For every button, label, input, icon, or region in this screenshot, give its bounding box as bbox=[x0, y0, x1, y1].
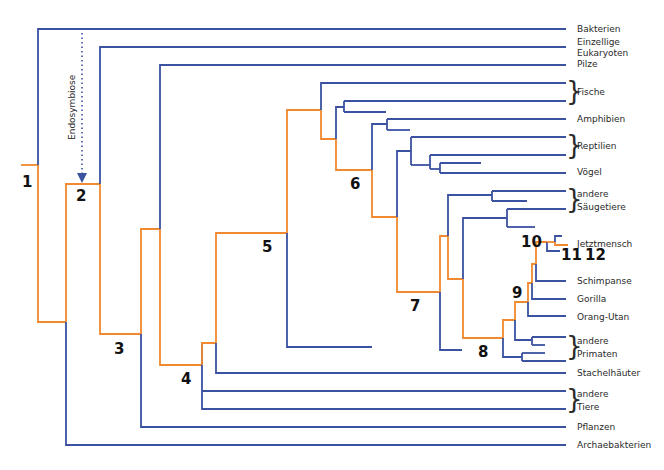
leaf-gorilla: Gorilla bbox=[577, 294, 606, 304]
arrowhead-icon bbox=[77, 173, 87, 183]
leaf-saeugetiere-line1: andere bbox=[577, 189, 609, 199]
lineage-branch-29 bbox=[372, 170, 397, 217]
leaf-fische: Fische bbox=[577, 87, 605, 97]
lineage-branch-40 bbox=[397, 217, 440, 292]
node-5: 5 bbox=[262, 238, 272, 256]
branch-16 bbox=[287, 233, 372, 347]
lineage-branch-72 bbox=[555, 242, 568, 245]
node-8: 8 bbox=[478, 343, 488, 361]
node-7: 7 bbox=[410, 297, 420, 315]
endosymbiose-annotation: Endosymbiose bbox=[67, 33, 87, 183]
branch-69 bbox=[547, 242, 560, 251]
node-labels: 1 2 3 4 5 6 7 8 9 10 11 12 bbox=[22, 173, 606, 388]
branch-9 bbox=[160, 65, 566, 229]
node-2: 2 bbox=[76, 187, 86, 205]
leaf-voegel: Vögel bbox=[577, 167, 602, 177]
branch-71 bbox=[555, 236, 562, 242]
branch-48 bbox=[463, 218, 507, 279]
branch-25 bbox=[372, 124, 387, 170]
node-4: 4 bbox=[181, 370, 191, 388]
leaf-orangutan: Orang-Utan bbox=[577, 312, 629, 322]
branch-5 bbox=[100, 47, 566, 184]
leaf-schimpanse: Schimpanse bbox=[577, 276, 632, 286]
node-12: 12 bbox=[585, 246, 606, 264]
node-10: 10 bbox=[521, 233, 542, 251]
lineage-branch-13 bbox=[202, 343, 216, 365]
lineage-branch-8 bbox=[141, 229, 160, 334]
branch-20 bbox=[336, 107, 344, 139]
branch-43 bbox=[448, 195, 492, 236]
branch-41 bbox=[440, 292, 462, 350]
lineage-branch-24 bbox=[336, 139, 372, 170]
lineage-branch-57 bbox=[503, 320, 515, 338]
lineage-branch-42 bbox=[440, 236, 448, 292]
lineage-branch-6 bbox=[100, 184, 141, 334]
branch-2 bbox=[38, 29, 566, 165]
branch-30 bbox=[397, 151, 411, 217]
branch-14 bbox=[216, 343, 566, 373]
leaf-reptilien: Reptilien bbox=[577, 141, 616, 151]
branch-67 bbox=[536, 264, 566, 281]
lineage-branch-10 bbox=[160, 229, 202, 365]
leaf-amphibien: Amphibien bbox=[577, 114, 625, 124]
lineage-branch-19 bbox=[321, 110, 336, 139]
branch-65 bbox=[532, 283, 566, 299]
lineage-branch-47 bbox=[448, 236, 463, 279]
leaf-eukaryoten-line1: Einzellige bbox=[577, 37, 620, 47]
node-3: 3 bbox=[114, 340, 124, 358]
branch-18 bbox=[321, 83, 566, 110]
leaf-pflanzen: Pflanzen bbox=[577, 422, 615, 432]
node-1: 1 bbox=[22, 173, 32, 191]
leaf-bakterien: Bakterien bbox=[577, 24, 620, 34]
phylogenetic-tree: Endosymbiose Bakterien Einzellige Eukary… bbox=[0, 0, 664, 470]
lineage-branch-52 bbox=[463, 279, 503, 338]
node-6: 6 bbox=[350, 175, 360, 193]
node-11: 11 bbox=[561, 246, 582, 264]
lineage-branch-15 bbox=[216, 233, 287, 343]
lineage-branch-17 bbox=[287, 110, 321, 233]
leaf-primaten-line1: andere bbox=[577, 336, 609, 346]
lineage-branch-1 bbox=[38, 165, 66, 322]
endosymbiose-label: Endosymbiose bbox=[67, 74, 77, 140]
leaf-tiere-line1: andere bbox=[577, 389, 609, 399]
node-9: 9 bbox=[512, 284, 522, 302]
leaf-tiere-line2: Tiere bbox=[576, 402, 600, 412]
leaf-labels: Bakterien Einzellige Eukaryoten Pilze } … bbox=[566, 24, 651, 450]
lineage-branch-62 bbox=[515, 302, 528, 320]
branch-58 bbox=[515, 320, 532, 340]
leaf-stachelhaeuter: Stachelhäuter bbox=[577, 368, 640, 378]
leaf-saeugetiere-line2: Säugetiere bbox=[577, 202, 626, 212]
leaf-archaebakterien: Archaebakterien bbox=[577, 440, 651, 450]
tree-branches bbox=[21, 29, 568, 445]
branch-63 bbox=[528, 302, 566, 316]
leaf-pilze: Pilze bbox=[577, 59, 598, 69]
branch-11 bbox=[202, 343, 566, 409]
leaf-primaten-line2: Primaten bbox=[577, 349, 618, 359]
leaf-eukaryoten-line2: Eukaryoten bbox=[577, 48, 628, 58]
